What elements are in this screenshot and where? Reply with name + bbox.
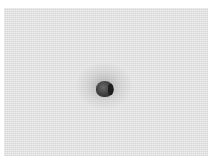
dark-spot-core (108, 84, 113, 95)
textured-surface (4, 8, 208, 156)
